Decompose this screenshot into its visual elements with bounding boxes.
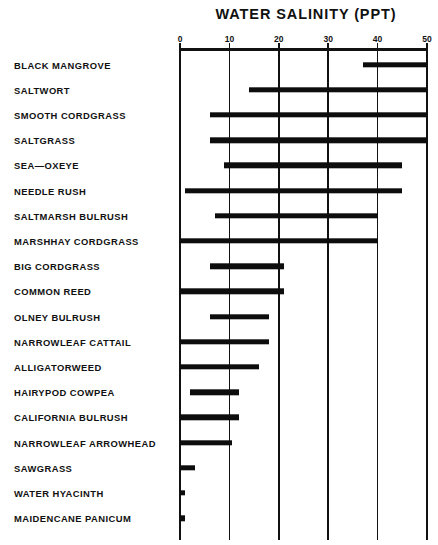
range-bar [180,364,259,369]
range-bar [180,440,232,445]
chart-row: SMOOTH CORDGRASS [0,102,438,127]
range-bar [180,465,195,470]
range-bar [180,289,284,294]
chart-row: SAWGRASS [0,455,438,480]
row-label: NARROWLEAF CATTAIL [14,336,131,347]
row-label: HAIRYPOD COWPEA [14,387,115,398]
row-label: SMOOTH CORDGRASS [14,109,126,120]
range-bar [180,515,185,520]
range-bar [185,188,402,193]
row-label: SAWGRASS [14,462,72,473]
chart-row: NARROWLEAF ARROWHEAD [0,430,438,455]
row-label: SALTWORT [14,84,70,95]
row-label: SALTGRASS [14,135,75,146]
x-axis-line [180,48,427,51]
chart-row: OLNEY BULRUSH [0,304,438,329]
chart-row: SALTMARSH BULRUSH [0,203,438,228]
tick-mark-20 [278,43,280,52]
tick-mark-30 [327,43,329,52]
x-axis-tick-labels: 01020304050 [180,8,427,28]
chart-row: WATER HYACINTH [0,480,438,505]
row-label: OLNEY BULRUSH [14,311,100,322]
row-label: COMMON REED [14,286,91,297]
salinity-range-chart: WATER SALINITY (PPT) 01020304050 BLACK M… [0,0,438,545]
row-label: BIG CORDGRASS [14,261,100,272]
chart-row: BIG CORDGRASS [0,254,438,279]
range-bar [190,389,239,394]
row-label: SALTMARSH BULRUSH [14,210,128,221]
chart-row: CALIFORNIA BULRUSH [0,405,438,430]
row-label: WATER HYACINTH [14,487,104,498]
range-bar [180,415,239,420]
range-bar [210,263,284,268]
row-label: ALLIGATORWEED [14,361,102,372]
row-label: NARROWLEAF ARROWHEAD [14,437,156,448]
chart-row: BLACK MANGROVE [0,52,438,77]
row-label: CALIFORNIA BULRUSH [14,412,128,423]
row-label: MAIDENCANE PANICUM [14,513,131,524]
chart-row: MARSHHAY CORDGRASS [0,228,438,253]
chart-row: NEEDLE RUSH [0,178,438,203]
chart-row: HAIRYPOD COWPEA [0,380,438,405]
range-bar [180,490,185,495]
range-bar [180,238,378,243]
range-bar [180,339,269,344]
chart-row: SEA—OXEYE [0,153,438,178]
chart-row: NARROWLEAF CATTAIL [0,329,438,354]
row-label: BLACK MANGROVE [14,59,111,70]
range-bar [363,62,427,67]
tick-mark-50 [426,43,428,52]
range-bar [215,213,378,218]
chart-row: SALTGRASS [0,128,438,153]
tick-mark-40 [377,43,379,52]
range-bar [210,112,427,117]
chart-row: ALLIGATORWEED [0,354,438,379]
tick-mark-10 [229,43,231,52]
range-bar [224,163,402,168]
row-label: MARSHHAY CORDGRASS [14,235,139,246]
chart-rows: BLACK MANGROVESALTWORTSMOOTH CORDGRASSSA… [0,52,438,540]
range-bar [210,137,427,142]
chart-row: COMMON REED [0,279,438,304]
row-label: NEEDLE RUSH [14,185,86,196]
range-bar [249,87,427,92]
chart-row: SALTWORT [0,77,438,102]
range-bar [210,314,269,319]
tick-mark-0 [179,43,181,52]
row-label: SEA—OXEYE [14,160,79,171]
chart-row: MAIDENCANE PANICUM [0,506,438,531]
